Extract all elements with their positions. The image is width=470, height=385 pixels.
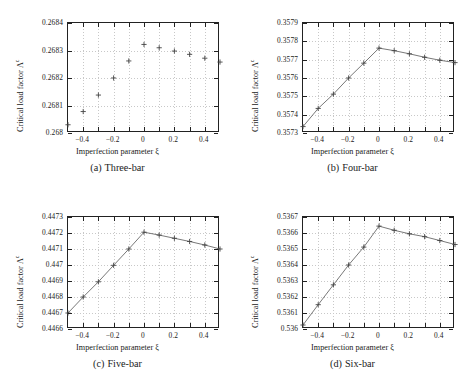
y-axis-tick (449, 265, 453, 266)
y-axis-label-exponent: c (14, 256, 20, 259)
data-point-marker (392, 48, 397, 53)
x-axis-tick (440, 23, 441, 27)
data-point-marker (217, 246, 222, 251)
x-axis-tick (83, 23, 84, 27)
y-axis-tick (449, 41, 453, 42)
x-axis-tick (159, 323, 160, 327)
series-line (303, 226, 455, 325)
y-axis-tick (214, 329, 218, 330)
x-axis-tick (318, 323, 319, 327)
x-axis-tick (379, 127, 380, 131)
caption-letter-a: (a) (90, 162, 101, 173)
panel-six-bar: Critical load factor Λc Imperfection par… (235, 192, 470, 385)
x-axis-tick (114, 127, 115, 131)
y-axis-tick-label: 0.536 (235, 324, 298, 333)
y-axis-tick-label: 0.5364 (235, 260, 298, 269)
x-axis-tick (144, 323, 145, 327)
data-point-marker (96, 92, 101, 97)
x-axis-tick (440, 217, 441, 221)
x-axis-tick-label: −0.4 (75, 331, 89, 340)
data-point-marker (81, 109, 86, 114)
x-axis-tick (409, 127, 410, 131)
y-axis-tick (303, 96, 307, 97)
y-axis-tick (214, 133, 218, 134)
x-axis-tick (144, 127, 145, 131)
x-axis-tick (144, 23, 145, 27)
x-axis-tick (409, 23, 410, 27)
plot-area-d (302, 216, 454, 328)
y-axis-label-a: Critical load factor Λc (14, 60, 25, 132)
y-axis-tick (214, 78, 218, 79)
caption-letter-c: (c) (93, 358, 104, 369)
y-axis-tick-label: 0.4466 (0, 324, 63, 333)
x-axis-tick (349, 323, 350, 327)
y-axis-tick-label: 0.3576 (235, 73, 298, 82)
y-axis-tick-label: 0.5366 (235, 228, 298, 237)
data-point-marker (452, 242, 457, 247)
x-axis-tick-label: 0.4 (199, 135, 209, 144)
panel-four-bar: Critical load factor Λc Imperfection par… (235, 0, 470, 192)
x-axis-label-a: Imperfection parameter ξ (0, 147, 235, 156)
x-axis-tick (129, 217, 130, 221)
y-axis-tick (214, 51, 218, 52)
y-axis-tick-label: 0.5365 (235, 244, 298, 253)
x-axis-tick (205, 323, 206, 327)
x-axis-tick (364, 23, 365, 27)
x-axis-tick-label: −0.2 (106, 331, 120, 340)
y-axis-tick (303, 60, 307, 61)
x-axis-tick-label: −0.4 (310, 135, 324, 144)
data-point-marker (452, 60, 457, 65)
plot-area-a (67, 22, 219, 132)
y-axis-tick (303, 297, 307, 298)
panel-three-bar: Critical load factor Λc Imperfection par… (0, 0, 235, 192)
y-axis-tick (449, 78, 453, 79)
y-axis-tick (449, 281, 453, 282)
data-point-marker (437, 58, 442, 63)
y-axis-tick-label: 0.3574 (235, 109, 298, 118)
y-axis-tick (68, 233, 72, 234)
x-axis-tick (98, 323, 99, 327)
x-axis-tick (205, 23, 206, 27)
y-axis-tick-label: 0.5361 (235, 308, 298, 317)
x-axis-tick-label: 0.2 (404, 135, 414, 144)
caption-text-d: Six-bar (345, 358, 375, 369)
y-axis-tick (303, 233, 307, 234)
x-axis-tick-label: 0.4 (434, 135, 444, 144)
y-axis-tick (449, 133, 453, 134)
y-axis-tick-label: 0.5367 (235, 212, 298, 221)
y-axis-tick (303, 133, 307, 134)
x-axis-tick (129, 323, 130, 327)
x-axis-label-b: Imperfection parameter ξ (235, 147, 470, 156)
y-axis-tick (303, 78, 307, 79)
x-axis-tick (333, 127, 334, 131)
x-axis-tick (440, 323, 441, 327)
data-point-marker (202, 242, 207, 247)
x-axis-tick (129, 127, 130, 131)
plot-area-c (67, 216, 219, 328)
x-axis-tick (318, 127, 319, 131)
y-axis-tick-label: 0.3575 (235, 91, 298, 100)
data-point-marker (157, 232, 162, 237)
series-line (303, 48, 455, 126)
data-point-marker (392, 228, 397, 233)
y-axis-tick (68, 313, 72, 314)
y-axis-tick (449, 60, 453, 61)
y-axis-tick-label: 0.2682 (0, 73, 63, 82)
x-axis-tick (425, 127, 426, 131)
x-axis-tick (333, 217, 334, 221)
y-axis-tick (449, 96, 453, 97)
y-axis-tick (303, 329, 307, 330)
x-axis-tick (129, 23, 130, 27)
x-axis-tick (394, 127, 395, 131)
y-axis-tick-label: 0.4468 (0, 292, 63, 301)
x-axis-tick (190, 127, 191, 131)
y-axis-tick (303, 41, 307, 42)
x-axis-label-c: Imperfection parameter ξ (0, 343, 235, 352)
x-axis-label-d: Imperfection parameter ξ (235, 343, 470, 352)
data-point-marker (141, 42, 146, 47)
x-axis-tick (98, 217, 99, 221)
y-axis-tick (214, 297, 218, 298)
data-point-marker (422, 55, 427, 60)
x-axis-tick (318, 23, 319, 27)
caption-letter-d: (d) (330, 358, 342, 369)
